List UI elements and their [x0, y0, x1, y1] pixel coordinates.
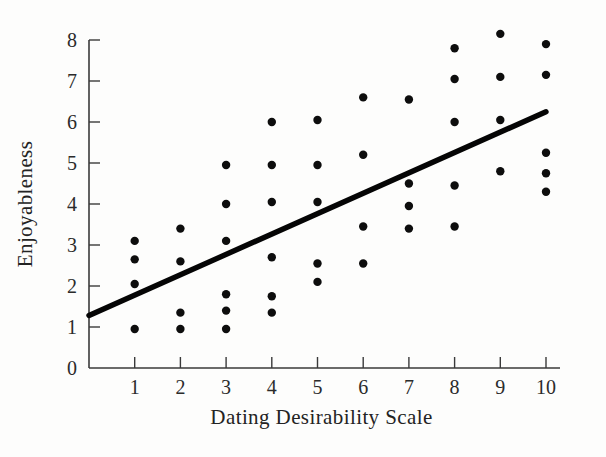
data-point: [222, 290, 230, 298]
data-point: [222, 325, 230, 333]
data-point: [542, 40, 550, 48]
data-point: [359, 151, 367, 159]
data-point: [222, 306, 230, 314]
figure-background: [0, 0, 606, 457]
data-point: [176, 325, 184, 333]
data-point: [268, 161, 276, 169]
data-point: [131, 325, 139, 333]
data-point: [268, 292, 276, 300]
data-point: [268, 308, 276, 316]
data-point: [542, 188, 550, 196]
data-point: [131, 280, 139, 288]
data-point: [313, 116, 321, 124]
data-point: [359, 222, 367, 230]
y-tick-label: 0: [67, 357, 77, 379]
plot-canvas: 012345678 12345678910 Dating Desirabilit…: [0, 0, 606, 457]
x-tick-label: 6: [358, 376, 368, 398]
data-point: [450, 222, 458, 230]
data-point: [405, 95, 413, 103]
data-point: [405, 224, 413, 232]
data-point: [405, 202, 413, 210]
data-point: [496, 73, 504, 81]
x-tick-label: 10: [536, 376, 556, 398]
data-point: [222, 161, 230, 169]
y-tick-label: 7: [67, 70, 77, 92]
data-point: [131, 255, 139, 263]
data-point: [176, 224, 184, 232]
data-point: [313, 259, 321, 267]
x-axis-title: Dating Desirability Scale: [210, 405, 432, 429]
y-tick-label: 4: [67, 193, 77, 215]
y-axis-title: Enjoyableness: [13, 141, 37, 268]
scatter-plot-figure: 012345678 12345678910 Dating Desirabilit…: [0, 0, 606, 457]
data-point: [405, 179, 413, 187]
data-point: [268, 253, 276, 261]
x-tick-label: 4: [267, 376, 277, 398]
data-point: [268, 198, 276, 206]
y-tick-label: 3: [67, 234, 77, 256]
data-point: [496, 167, 504, 175]
data-point: [359, 259, 367, 267]
data-point: [359, 93, 367, 101]
y-tick-label: 6: [67, 111, 77, 133]
x-tick-label: 9: [495, 376, 505, 398]
data-point: [176, 308, 184, 316]
y-tick-label: 1: [67, 316, 77, 338]
data-point: [131, 237, 139, 245]
data-point: [450, 44, 458, 52]
data-point: [222, 237, 230, 245]
data-point: [450, 181, 458, 189]
data-point: [450, 75, 458, 83]
data-point: [313, 198, 321, 206]
data-point: [496, 30, 504, 38]
x-tick-label: 5: [313, 376, 323, 398]
data-point: [222, 200, 230, 208]
x-tick-label: 7: [404, 376, 414, 398]
data-point: [542, 149, 550, 157]
y-tick-label: 5: [67, 152, 77, 174]
data-point: [450, 118, 458, 126]
y-tick-label: 8: [67, 29, 77, 51]
data-point: [176, 257, 184, 265]
data-point: [496, 116, 504, 124]
x-tick-label: 1: [130, 376, 140, 398]
data-point: [313, 161, 321, 169]
data-point: [268, 118, 276, 126]
x-tick-label: 8: [450, 376, 460, 398]
x-tick-label: 3: [221, 376, 231, 398]
data-point: [313, 278, 321, 286]
y-tick-label: 2: [67, 275, 77, 297]
data-point: [542, 169, 550, 177]
data-point: [542, 71, 550, 79]
x-tick-label: 2: [175, 376, 185, 398]
